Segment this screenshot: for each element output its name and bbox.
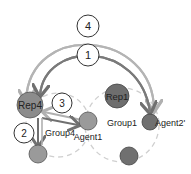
node-rep1: Rep1 bbox=[105, 84, 129, 108]
group1-label: Group1 bbox=[107, 118, 137, 128]
svg-text:2: 2 bbox=[21, 128, 27, 139]
node-agent2: Agent2' bbox=[142, 114, 185, 130]
node-agent1: Agent1 bbox=[74, 112, 103, 142]
svg-text:3: 3 bbox=[59, 98, 65, 109]
svg-text:4: 4 bbox=[85, 20, 91, 32]
group4-label: Group4 bbox=[45, 128, 75, 138]
step-3-badge: 3 bbox=[52, 93, 72, 113]
arrow-step3-dark bbox=[42, 118, 78, 125]
svg-text:Agent2': Agent2' bbox=[155, 118, 186, 128]
step-1-badge: 1 bbox=[77, 44, 99, 66]
node-group4-member bbox=[29, 145, 47, 163]
svg-text:Agent1: Agent1 bbox=[74, 132, 103, 142]
step-2-badge: 2 bbox=[14, 123, 34, 143]
node-rep4: Rep4 bbox=[17, 92, 43, 118]
step-4-badge: 4 bbox=[77, 15, 99, 37]
svg-text:1: 1 bbox=[85, 49, 91, 61]
svg-text:Rep1: Rep1 bbox=[106, 91, 129, 102]
node-group1-member bbox=[120, 147, 138, 165]
svg-text:Rep4: Rep4 bbox=[18, 100, 42, 111]
diagram-canvas: 4 1 3 2 Rep4 Rep1 Agent1 Agent2' Group4 … bbox=[0, 0, 191, 174]
